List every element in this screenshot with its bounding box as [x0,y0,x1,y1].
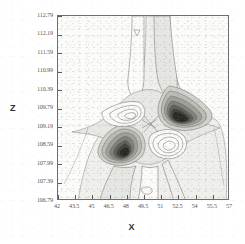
x-tick-mark [178,195,179,199]
y-tick-mark [58,183,62,184]
y-tick-mark [58,164,62,165]
y-tick-mark [58,35,62,36]
contour-canvas [58,16,228,199]
y-tick-label: 108.59 [19,141,53,147]
y-tick-label: 111.59 [19,49,53,55]
y-tick-label: 109.19 [19,123,53,129]
x-tick-mark [144,195,145,199]
y-tick-label: 109.79 [19,104,53,110]
y-tick-label: 112.19 [19,30,53,36]
x-tick-label: 57 [216,203,242,209]
y-tick-label: 112.79 [19,12,53,18]
plot-area [57,15,229,200]
y-tick-mark [58,53,62,54]
contour-band-upper-left [128,16,144,100]
y-tick-mark [58,90,62,91]
y-tick-mark [58,109,62,110]
x-tick-mark [110,195,111,199]
y-tick-label: 107.99 [19,160,53,166]
x-tick-mark [213,195,214,199]
y-tick-mark [58,146,62,147]
x-tick-mark [75,195,76,199]
x-tick-mark [196,195,197,199]
x-tick-mark [127,195,128,199]
contour-svg [58,16,229,200]
y-tick-label: 110.99 [19,67,53,73]
contour-lower-right-lobe-1 [149,130,187,159]
x-axis-title: X [0,222,245,232]
y-tick-mark [58,16,62,17]
y-tick-mark [58,72,62,73]
x-tick-mark [58,195,59,199]
y-tick-label: 107.39 [19,178,53,184]
x-tick-mark [92,195,93,199]
y-tick-label: 106.79 [19,197,53,203]
y-tick-label: 110.39 [19,86,53,92]
x-tick-mark [161,195,162,199]
contour-figure: Z X 112.79112.19111.59110.99110.39109.79… [0,0,245,244]
y-axis-title: Z [10,103,16,113]
y-tick-mark [58,127,62,128]
